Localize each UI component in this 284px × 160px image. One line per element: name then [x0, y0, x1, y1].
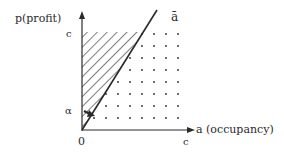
alpha-label: α — [65, 105, 72, 116]
x-tick-label-c: c — [183, 136, 189, 147]
x-axis — [82, 127, 195, 133]
origin-label: 0 — [78, 135, 85, 148]
profit-occupancy-diagram: p(profit) c α 0 c a (occupancy) ā — [0, 0, 284, 160]
line-a-bar-label: ā — [171, 10, 178, 24]
y-axis-arrow-icon — [79, 11, 85, 19]
x-axis-label: a (occupancy) — [196, 123, 274, 136]
y-tick-label-c: c — [66, 28, 72, 39]
y-axis-label: p(profit) — [15, 12, 61, 25]
x-axis-arrow-icon — [187, 127, 195, 133]
